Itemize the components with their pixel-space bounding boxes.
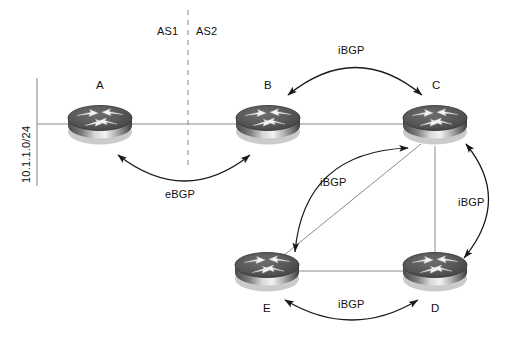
network-diagram: 10.1.1.0/24 AS1 AS2 A B C E D eBGP iBGP …	[0, 0, 523, 348]
session-arrow-ibgp-b-c[interactable]	[288, 68, 422, 96]
router-a[interactable]	[68, 106, 132, 145]
router-b[interactable]	[236, 106, 300, 145]
router-c[interactable]	[403, 106, 467, 145]
router-label-c: C	[432, 79, 441, 91]
router-d[interactable]	[403, 253, 467, 292]
router-label-d: D	[431, 302, 440, 314]
router-e[interactable]	[235, 253, 299, 292]
router-label-b: B	[264, 79, 272, 91]
link-c-e	[283, 144, 421, 256]
session-label-ebgp-a-b: eBGP	[165, 188, 195, 200]
as2-label: AS2	[196, 25, 217, 37]
router-label-e: E	[263, 302, 271, 314]
session-label-ibgp-c-e: iBGP	[320, 176, 346, 188]
session-arrow-ebgp-a-b[interactable]	[118, 155, 250, 181]
session-label-ibgp-b-c: iBGP	[338, 44, 364, 56]
diagram-canvas	[0, 0, 523, 348]
router-label-a: A	[96, 79, 104, 91]
session-label-ibgp-e-d: iBGP	[338, 298, 364, 310]
session-label-ibgp-c-d: iBGP	[458, 196, 484, 208]
as1-label: AS1	[157, 25, 178, 37]
prefix-label: 10.1.1.0/24	[20, 126, 32, 183]
